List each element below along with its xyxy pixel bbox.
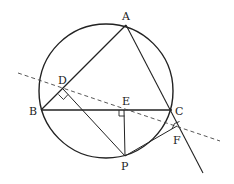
segment-ab	[41, 25, 126, 110]
label-a: A	[121, 10, 131, 23]
label-b: B	[29, 105, 37, 118]
segment-pe	[124, 110, 125, 156]
simson-line-dashed	[18, 73, 220, 141]
label-p: P	[121, 160, 129, 173]
segment-pf	[125, 126, 177, 156]
geometry-diagram: A B C D E F P	[0, 0, 234, 184]
label-c: C	[175, 105, 183, 118]
right-angle-marker-d	[59, 95, 69, 100]
label-d: D	[58, 74, 67, 87]
label-f: F	[173, 134, 181, 147]
label-e: E	[122, 95, 130, 108]
